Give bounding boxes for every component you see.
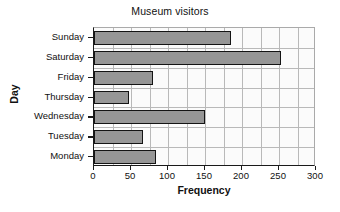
bar-friday <box>94 71 153 85</box>
y-axis-tick <box>88 77 93 78</box>
bar-monday <box>94 150 156 164</box>
x-axis-label-200: 200 <box>221 170 261 181</box>
bar-tuesday <box>94 130 143 144</box>
bar-chart: Museum visitors Day Frequency MondayTues… <box>0 0 340 212</box>
gridline-horizontal <box>94 107 314 108</box>
y-axis-tick <box>88 136 93 137</box>
x-axis-label-150: 150 <box>184 170 224 181</box>
y-axis-label-friday: Friday <box>0 72 84 82</box>
bar-sunday <box>94 31 231 45</box>
gridline-horizontal <box>94 147 314 148</box>
y-axis-label-wednesday: Wednesday <box>0 111 84 121</box>
y-axis-tick <box>88 97 93 98</box>
bar-saturday <box>94 51 281 65</box>
x-axis-label-100: 100 <box>147 170 187 181</box>
x-axis-label-0: 0 <box>73 170 113 181</box>
bar-thursday <box>94 91 129 105</box>
x-axis-title: Frequency <box>93 184 315 196</box>
y-axis-label-thursday: Thursday <box>0 92 84 102</box>
bar-wednesday <box>94 110 205 124</box>
chart-title: Museum visitors <box>0 5 340 17</box>
plot-area <box>93 27 315 166</box>
y-axis-tick <box>88 116 93 117</box>
y-axis-label-tuesday: Tuesday <box>0 131 84 141</box>
x-axis-label-250: 250 <box>258 170 298 181</box>
x-axis-label-50: 50 <box>110 170 150 181</box>
gridline-horizontal <box>94 68 314 69</box>
y-axis-label-saturday: Saturday <box>0 52 84 62</box>
y-axis-tick <box>88 37 93 38</box>
y-axis-tick <box>88 156 93 157</box>
y-axis-label-monday: Monday <box>0 151 84 161</box>
x-axis-label-300: 300 <box>295 170 335 181</box>
y-axis-tick <box>88 57 93 58</box>
gridline-horizontal <box>94 88 314 89</box>
gridline-horizontal <box>94 127 314 128</box>
gridline-horizontal <box>94 48 314 49</box>
y-axis-label-sunday: Sunday <box>0 32 84 42</box>
